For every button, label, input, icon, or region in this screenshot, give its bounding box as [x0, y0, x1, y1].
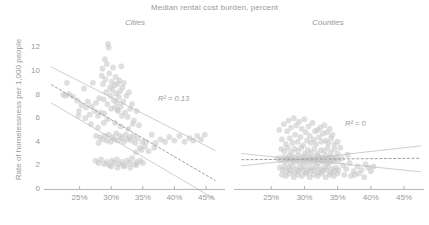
data-point [288, 125, 294, 131]
data-point [139, 147, 145, 153]
data-point [281, 121, 287, 127]
data-point [90, 80, 96, 86]
data-point [121, 164, 127, 170]
data-point [166, 134, 172, 140]
data-point [310, 120, 316, 126]
y-tick-label: 10 [22, 66, 40, 75]
data-point [136, 122, 142, 128]
scatter-plot-canvas [0, 0, 429, 225]
data-point [298, 134, 304, 140]
data-point [121, 80, 127, 86]
counties-point-cloud [275, 115, 376, 180]
data-point [93, 158, 99, 164]
axes [44, 186, 424, 189]
data-point [279, 137, 285, 143]
confidence-band-lower-cities [51, 103, 215, 200]
y-tick-label: 2 [22, 160, 40, 169]
data-point [105, 101, 111, 107]
data-point [101, 96, 107, 102]
chart-figure: Median rental cost burden, percent Citie… [0, 0, 429, 225]
data-point [339, 155, 345, 161]
y-tick-label: 6 [22, 113, 40, 122]
x-tick-label: 45% [193, 193, 219, 202]
data-point [198, 137, 204, 143]
y-tick-label: 8 [22, 90, 40, 99]
data-point [95, 125, 101, 131]
data-point [101, 120, 107, 126]
data-point [106, 70, 112, 76]
data-point [64, 80, 70, 86]
x-tick-label: 30% [291, 193, 317, 202]
x-tick-label: 25% [258, 193, 284, 202]
data-point [276, 127, 282, 133]
data-point [110, 65, 116, 71]
y-tick-label: 12 [22, 42, 40, 51]
x-tick-label: 35% [325, 193, 351, 202]
data-point [292, 132, 298, 138]
data-point [290, 140, 296, 146]
data-point [99, 66, 105, 72]
x-tick-label: 35% [130, 193, 156, 202]
data-point [335, 139, 341, 145]
data-point [82, 115, 88, 121]
data-point [126, 89, 132, 95]
data-point [337, 145, 343, 151]
data-point [104, 61, 110, 67]
data-point [298, 145, 304, 151]
data-point [321, 122, 327, 128]
data-point [149, 132, 155, 138]
data-point [286, 118, 292, 124]
data-point [202, 132, 208, 138]
data-point [352, 172, 358, 178]
data-point [129, 101, 135, 107]
data-point [325, 145, 331, 151]
data-point [93, 100, 99, 106]
x-tick-label: 45% [391, 193, 417, 202]
data-point [134, 162, 140, 168]
data-point [106, 45, 112, 51]
data-point [103, 76, 109, 82]
data-point [329, 132, 335, 138]
data-point [296, 119, 302, 125]
data-point [361, 174, 367, 180]
data-point [127, 165, 133, 171]
data-point [172, 138, 178, 144]
data-point [140, 160, 146, 166]
y-tick-label: 0 [22, 184, 40, 193]
y-tick-label: 4 [22, 137, 40, 146]
data-point [331, 146, 337, 152]
data-point [81, 86, 87, 92]
data-point [96, 140, 102, 146]
data-point [335, 171, 341, 177]
data-point [116, 94, 122, 100]
data-point [162, 139, 168, 145]
data-point [115, 165, 121, 171]
data-point [115, 107, 121, 113]
data-point [146, 148, 152, 154]
data-point [285, 145, 291, 151]
x-tick-label: 40% [358, 193, 384, 202]
data-point [343, 166, 349, 172]
x-tick-label: 25% [67, 193, 93, 202]
data-point [327, 126, 333, 132]
data-point [93, 133, 99, 139]
data-point [182, 139, 188, 145]
data-point [341, 172, 347, 178]
data-point [177, 133, 183, 139]
x-tick-label: 40% [161, 193, 187, 202]
x-tick-label: 30% [98, 193, 124, 202]
data-point [70, 93, 76, 99]
data-point [345, 152, 351, 158]
data-point [125, 126, 131, 132]
data-point [129, 155, 135, 161]
regression-line-counties [241, 158, 420, 159]
data-point [311, 146, 317, 152]
data-point [85, 99, 91, 105]
data-point [125, 114, 131, 120]
data-point [302, 116, 308, 122]
data-point [108, 164, 114, 170]
data-point [291, 115, 297, 121]
data-point [118, 63, 124, 69]
data-point [130, 121, 136, 127]
